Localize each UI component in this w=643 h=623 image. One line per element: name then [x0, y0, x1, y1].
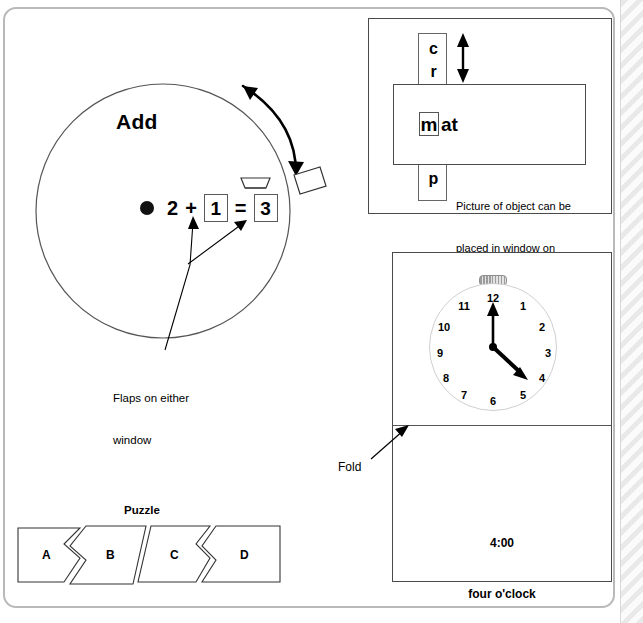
puzzle-strip: A B C D [18, 524, 280, 586]
window-flap[interactable] [241, 178, 270, 188]
analog-clock: 12 1 2 3 4 5 6 7 8 9 10 11 [429, 283, 557, 411]
addition-equation: 2 + 1 = 3 [140, 193, 278, 223]
fold-line [393, 425, 611, 426]
word-window-card: m at [393, 84, 586, 165]
flaps-annotation-line-2: window [113, 433, 189, 447]
equation-addend-1: 2 [167, 197, 178, 220]
puzzle-piece-b-label: B [106, 548, 115, 562]
spoken-time: four o'clock [393, 586, 611, 603]
word-ending: at [441, 115, 458, 134]
flaps-annotation: Flaps on either window [113, 363, 189, 475]
digital-time: 4:00 [393, 535, 611, 552]
equation-window-sum[interactable]: 3 [254, 194, 278, 222]
equation-equals: = [235, 197, 247, 220]
reverse-side-note-line-1: Picture of object can be [456, 199, 571, 213]
puzzle-title: Puzzle [124, 504, 160, 516]
clock-hands [429, 283, 557, 411]
add-wheel-title: Add [116, 110, 158, 134]
fold-label: Fold [338, 460, 361, 474]
word-family-card: c r f p m at Picture of object can be pl… [368, 18, 612, 214]
clock-fold-card: 12 1 2 3 4 5 6 7 8 9 10 11 4:00 four o'c… [392, 252, 612, 582]
time-readout: 4:00 four o'clock [393, 501, 611, 623]
word-display: m at [419, 112, 458, 136]
flaps-annotation-line-1: Flaps on either [113, 391, 189, 405]
add-wheel-region: Add 2 + 1 = 3 Flaps on either window [0, 0, 350, 480]
puzzle-piece-d-label: D [240, 548, 249, 562]
equation-operator: + [185, 197, 197, 220]
puzzle-piece-a-label: A [42, 548, 51, 562]
decorative-edge-strip [620, 0, 643, 623]
word-window-letter[interactable]: m [419, 112, 439, 136]
puzzle-piece-c-label: C [170, 548, 179, 562]
counter-dot-icon [140, 201, 154, 215]
equation-window-addend[interactable]: 1 [204, 194, 228, 222]
